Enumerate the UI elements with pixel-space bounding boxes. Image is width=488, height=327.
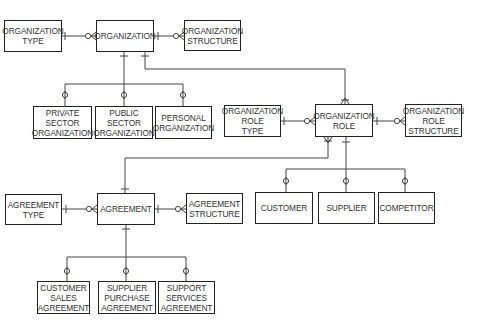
entity-label: ORGANIZATION bbox=[2, 26, 63, 36]
entity-label: SUPPORT bbox=[167, 283, 206, 293]
entity-label: ORGANIZATION bbox=[403, 106, 464, 116]
entity-label: ROLE bbox=[422, 116, 444, 126]
entity-customer-sales-agreement: CUSTOMER SALES AGREEMENT bbox=[37, 281, 90, 314]
entity-private-sector-organization: PRIVATE SECTOR ORGANIZATION bbox=[33, 106, 92, 139]
entity-label: PURCHASE bbox=[104, 293, 149, 303]
entity-label: STRUCTURE bbox=[187, 36, 237, 46]
entity-organization: ORGANIZATION bbox=[96, 20, 154, 52]
entity-label: ROLE bbox=[241, 116, 263, 126]
entity-label: ORGANIZATION bbox=[93, 128, 154, 138]
entity-label: STRUCTURE bbox=[408, 126, 458, 136]
entity-label: CUSTOMER bbox=[40, 283, 87, 293]
entity-label: COMPETITOR bbox=[379, 203, 433, 213]
entity-label: ORGANIZATION bbox=[182, 26, 243, 36]
entity-label: TYPE bbox=[23, 210, 44, 220]
entity-competitor: COMPETITOR bbox=[378, 192, 435, 224]
entity-label: AGREEMENT bbox=[8, 200, 60, 210]
entity-organization-type: ORGANIZATION TYPE bbox=[4, 20, 62, 52]
entity-label: SUPPLIER bbox=[107, 283, 147, 293]
connector-lines bbox=[0, 0, 488, 327]
entity-label: AGREEMENT bbox=[38, 303, 90, 313]
entity-label: CUSTOMER bbox=[261, 203, 308, 213]
entity-agreement-structure: AGREEMENT STRUCTURE bbox=[186, 193, 243, 224]
entity-label: AGREEMENT bbox=[161, 303, 213, 313]
entity-organization-role-type: ORGANIZATION ROLE TYPE bbox=[224, 105, 281, 137]
entity-label: SECTOR bbox=[107, 118, 141, 128]
entity-label: SUPPLIER bbox=[326, 203, 366, 213]
entity-label: SECTOR bbox=[46, 118, 80, 128]
entity-agreement: AGREEMENT bbox=[97, 193, 155, 225]
entity-agreement-type: AGREEMENT TYPE bbox=[5, 194, 62, 225]
entity-label: TYPE bbox=[22, 36, 43, 46]
entity-public-sector-organization: PUBLIC SECTOR ORGANIZATION bbox=[95, 106, 153, 139]
entity-label: TYPE bbox=[242, 126, 263, 136]
er-diagram: ORGANIZATION TYPE ORGANIZATION ORGANIZAT… bbox=[0, 0, 488, 327]
entity-label: PERSONAL bbox=[161, 113, 205, 123]
entity-organization-role-structure: ORGANIZATION ROLE STRUCTURE bbox=[405, 104, 462, 137]
entity-label: SALES bbox=[50, 293, 76, 303]
entity-customer: CUSTOMER bbox=[255, 192, 313, 224]
entity-label: ORGANIZATION bbox=[153, 123, 214, 133]
entity-personal-organization: PERSONAL ORGANIZATION bbox=[155, 106, 212, 139]
entity-label: ORGANIZATION bbox=[94, 31, 155, 41]
entity-supplier: SUPPLIER bbox=[318, 192, 375, 224]
entity-supplier-purchase-agreement: SUPPLIER PURCHASE AGREEMENT bbox=[98, 281, 156, 314]
entity-label: AGREEMENT bbox=[101, 303, 153, 313]
entity-label: AGREEMENT bbox=[189, 199, 241, 209]
entity-label: ROLE bbox=[333, 121, 355, 131]
entity-label: AGREEMENT bbox=[100, 204, 152, 214]
entity-label: SERVICES bbox=[166, 293, 207, 303]
entity-label: STRUCTURE bbox=[189, 209, 239, 219]
entity-organization-structure: ORGANIZATION STRUCTURE bbox=[184, 20, 241, 51]
entity-label: ORGANIZATION bbox=[313, 111, 374, 121]
entity-label: ORGANIZATION bbox=[32, 128, 93, 138]
entity-label: ORGANIZATION bbox=[222, 106, 283, 116]
entity-organization-role: ORGANIZATION ROLE bbox=[315, 104, 373, 137]
entity-label: PRIVATE bbox=[46, 108, 80, 118]
entity-support-services-agreement: SUPPORT SERVICES AGREEMENT bbox=[158, 281, 215, 314]
entity-label: PUBLIC bbox=[109, 108, 138, 118]
